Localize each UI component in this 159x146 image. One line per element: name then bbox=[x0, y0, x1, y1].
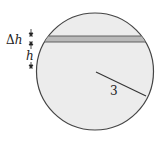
delta-h-label: Δh bbox=[6, 33, 22, 47]
sphere-slice-diagram: 3 Δh h bbox=[0, 0, 159, 146]
thin-slice-band bbox=[30, 36, 159, 42]
circle-cross-section bbox=[37, 13, 154, 130]
delta-h-dimension-arrows bbox=[29, 29, 33, 49]
h-label: h bbox=[26, 49, 34, 63]
radius-label: 3 bbox=[110, 84, 118, 98]
